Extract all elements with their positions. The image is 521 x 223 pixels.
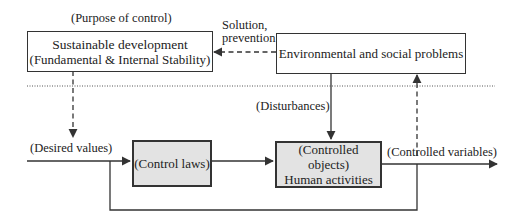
sustainable-box-subtitle: (Fundamental & Internal Stability) [30, 52, 211, 67]
control-laws-box: (Control laws) [132, 140, 212, 187]
sustainable-development-box: Sustainable development (Fundamental & I… [27, 31, 213, 72]
purpose-label: (Purpose of control) [71, 11, 172, 25]
controlled-objects-box: (Controlled objects) Human activities [275, 141, 382, 188]
human-activities-label: Human activities [284, 172, 372, 187]
solution-label-line2: prevention [222, 32, 275, 45]
environmental-box-title: Environmental and social problems [279, 46, 463, 61]
sustainable-box-title: Sustainable development [52, 37, 187, 52]
controlled-variables-label: (Controlled variables) [387, 145, 497, 159]
control-laws-title: (Control laws) [134, 156, 209, 171]
environmental-problems-box: Environmental and social problems [276, 33, 466, 74]
desired-values-label: (Desired values) [30, 141, 112, 155]
solution-label: Solution, prevention [222, 19, 275, 45]
controlled-objects-title: (Controlled objects) [277, 142, 380, 172]
disturbances-label: (Disturbances) [256, 99, 330, 113]
